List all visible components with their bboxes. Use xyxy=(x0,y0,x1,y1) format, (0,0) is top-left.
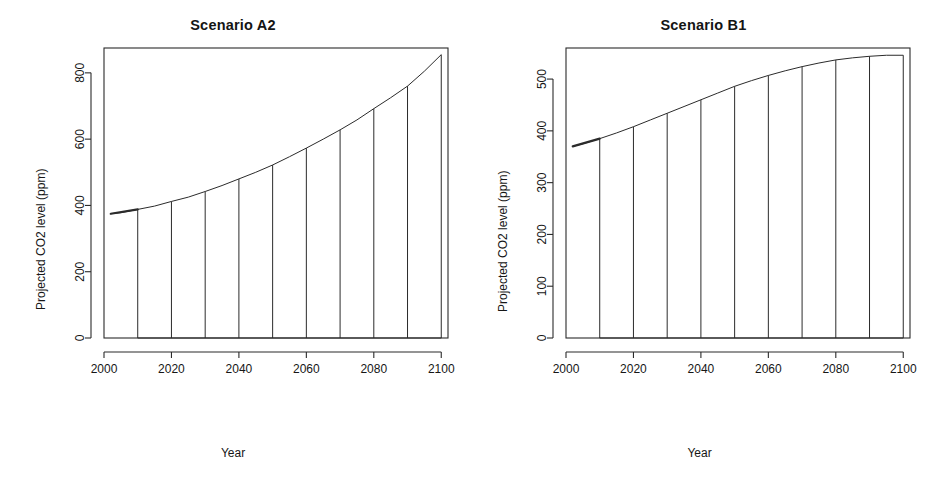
svg-text:2000: 2000 xyxy=(553,362,580,376)
svg-text:200: 200 xyxy=(73,261,87,281)
svg-text:800: 800 xyxy=(73,63,87,83)
svg-text:2020: 2020 xyxy=(158,362,185,376)
plot-area-a2: 2000202020402060208021000200400600800 xyxy=(0,0,466,478)
panel-a2-xlabel: Year xyxy=(0,446,466,460)
svg-text:2000: 2000 xyxy=(91,362,118,376)
svg-text:600: 600 xyxy=(73,129,87,149)
svg-text:400: 400 xyxy=(535,121,549,141)
panel-b1-xlabel: Year xyxy=(466,446,933,460)
svg-text:400: 400 xyxy=(73,195,87,215)
figure-two-panel-co2-scenarios: Scenario A2 2000202020402060208021000200… xyxy=(0,0,933,478)
svg-text:2020: 2020 xyxy=(620,362,647,376)
svg-text:2080: 2080 xyxy=(360,362,387,376)
svg-text:100: 100 xyxy=(535,276,549,296)
panel-b1-ylabel: Projected CO2 level (ppm) xyxy=(496,171,510,312)
svg-text:200: 200 xyxy=(535,224,549,244)
svg-text:300: 300 xyxy=(535,172,549,192)
svg-text:500: 500 xyxy=(535,69,549,89)
svg-text:2060: 2060 xyxy=(293,362,320,376)
svg-text:2040: 2040 xyxy=(226,362,253,376)
panel-scenario-a2: Scenario A2 2000202020402060208021000200… xyxy=(0,0,466,478)
panel-scenario-b1: Scenario B1 2000202020402060208021000100… xyxy=(466,0,933,478)
svg-text:2100: 2100 xyxy=(890,362,917,376)
svg-text:2100: 2100 xyxy=(428,362,455,376)
svg-text:0: 0 xyxy=(73,334,87,341)
svg-text:2080: 2080 xyxy=(822,362,849,376)
panel-a2-ylabel: Projected CO2 level (ppm) xyxy=(34,169,48,310)
svg-text:0: 0 xyxy=(535,334,549,341)
svg-text:2060: 2060 xyxy=(755,362,782,376)
plot-area-b1: 2000202020402060208021000100200300400500 xyxy=(466,0,933,478)
svg-text:2040: 2040 xyxy=(688,362,715,376)
